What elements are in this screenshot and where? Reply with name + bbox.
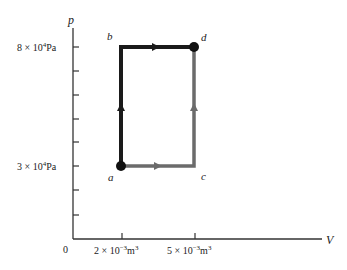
- y-tick-label-3e4: 3 × 104Pa: [17, 160, 57, 172]
- point-c-label: c: [201, 170, 206, 182]
- x-tick-label-5e-3: 5 × 10−3m3: [167, 244, 212, 256]
- point-d-label: d: [201, 31, 207, 43]
- path-a-to-c-to-d: [121, 47, 194, 166]
- pv-diagram: p V 0 8 × 104Pa 3 × 104Pa 2 × 10−3m3 5 ×…: [0, 0, 347, 270]
- arrow-right-icon: [154, 162, 162, 170]
- path-acd: [121, 47, 198, 170]
- x-axis-ticks: [122, 233, 195, 239]
- axes: p V 0 8 × 104Pa 3 × 104Pa 2 × 10−3m3 5 ×…: [17, 13, 335, 256]
- path-abd: [117, 43, 194, 166]
- origin-label: 0: [63, 244, 68, 255]
- y-tick-label-8e4: 8 × 104Pa: [17, 41, 57, 53]
- y-axis-ticks: [73, 47, 79, 215]
- arrow-up-icon: [117, 103, 125, 111]
- arrow-up-icon: [190, 103, 198, 111]
- path-a-to-b-to-d: [121, 47, 194, 166]
- arrow-right-icon: [152, 43, 160, 51]
- point-d-marker: [189, 42, 199, 52]
- point-a-label: a: [108, 171, 114, 183]
- point-b-label: b: [107, 30, 113, 42]
- x-axis-label: V: [326, 233, 335, 247]
- y-axis-label: p: [67, 13, 74, 27]
- point-a-marker: [116, 161, 126, 171]
- x-tick-label-2e-3: 2 × 10−3m3: [94, 244, 139, 256]
